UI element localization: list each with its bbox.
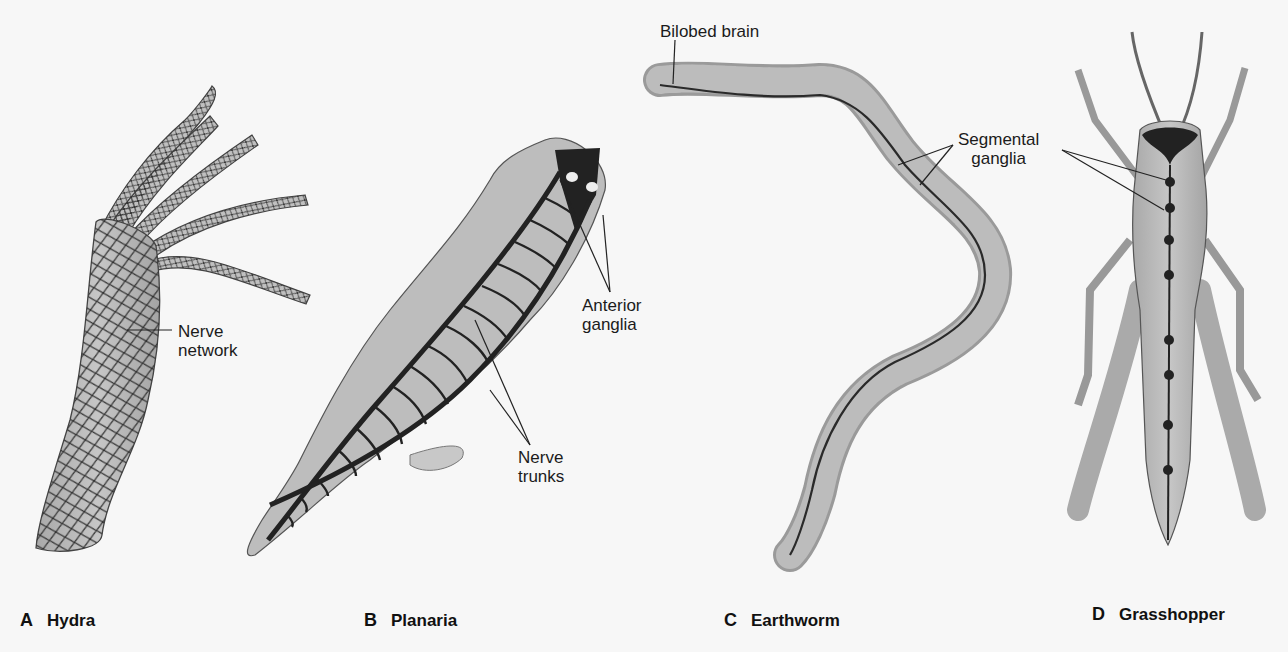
- label-line: Segmental: [958, 130, 1039, 149]
- label-nerve-network: Nerve network: [178, 322, 238, 360]
- label-anterior-ganglia: Anterior ganglia: [582, 296, 642, 334]
- caption-letter: C: [724, 610, 737, 630]
- grasshopper-illustration: [1062, 32, 1258, 545]
- caption-organism: Grasshopper: [1119, 605, 1225, 624]
- nervous-system-figure: Nerve network Anterior ganglia Nerve tru…: [0, 0, 1288, 652]
- hydra-illustration: [36, 86, 310, 551]
- caption-c: CEarthworm: [724, 610, 840, 631]
- caption-organism: Earthworm: [751, 611, 840, 630]
- label-line: Nerve: [518, 448, 564, 467]
- earthworm-illustration: [660, 40, 995, 555]
- label-nerve-trunks: Nerve trunks: [518, 448, 564, 486]
- caption-a: AHydra: [20, 610, 95, 631]
- label-line: trunks: [518, 467, 564, 486]
- label-line: ganglia: [958, 149, 1039, 168]
- label-line: network: [178, 341, 238, 360]
- caption-letter: B: [364, 610, 377, 630]
- label-line: Bilobed brain: [660, 22, 759, 41]
- label-line: ganglia: [582, 315, 642, 334]
- label-line: Nerve: [178, 322, 238, 341]
- label-bilobed-brain: Bilobed brain: [660, 22, 759, 41]
- caption-b: BPlanaria: [364, 610, 457, 631]
- label-line: Anterior: [582, 296, 642, 315]
- label-segmental-ganglia: Segmental ganglia: [958, 130, 1039, 168]
- caption-letter: A: [20, 610, 33, 630]
- caption-organism: Hydra: [47, 611, 95, 630]
- caption-d: DGrasshopper: [1092, 604, 1225, 625]
- caption-organism: Planaria: [391, 611, 457, 630]
- caption-letter: D: [1092, 604, 1105, 624]
